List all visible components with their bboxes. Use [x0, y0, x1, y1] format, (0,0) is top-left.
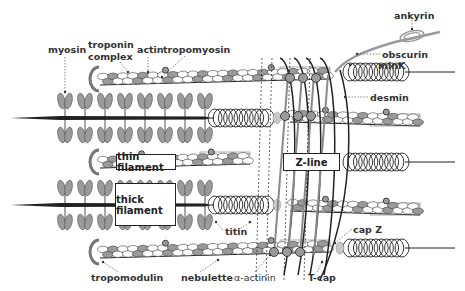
thick-filament-box: thick filament [115, 183, 176, 226]
myosin-head [83, 179, 93, 196]
actin-monomer [413, 119, 424, 125]
tropomodulin-cap [90, 240, 99, 264]
myosin-head [203, 92, 213, 109]
myosin-head [103, 179, 113, 196]
leader-arrowhead [321, 261, 323, 263]
titin-end [273, 112, 281, 124]
z-disc-node [307, 112, 316, 121]
thin-filament-box: thin filament [116, 154, 176, 170]
label-desmin: desmin [370, 92, 409, 103]
label-ankyrin: ankyrin [394, 10, 434, 21]
z-disc-node [283, 248, 292, 257]
myosin-head [163, 92, 173, 109]
leader-arrowhead [349, 64, 351, 66]
label-tropomodulin: tropomodulin [91, 272, 163, 283]
leader-line [255, 255, 270, 272]
troponin-complex [208, 149, 214, 155]
troponin-complex [383, 109, 389, 115]
tropomodulin-cap [90, 150, 99, 174]
z-line-box: Z-line [283, 153, 340, 171]
tropomodulin-cap [90, 67, 99, 91]
label-obscurin: obscurin [382, 49, 428, 60]
leader-arrowhead [147, 71, 149, 73]
troponin-complex [323, 196, 329, 202]
leader-arrowhead [161, 76, 163, 78]
leader-arrowhead [127, 71, 129, 73]
label-titin: titin [225, 226, 247, 237]
myosin-head [63, 179, 73, 196]
label-tropomyosin: tropomyosin [163, 44, 230, 55]
leader-arrowhead [249, 221, 251, 223]
troponin-complex [163, 67, 169, 73]
z-disc-node [281, 112, 290, 121]
z-disc-node [296, 248, 305, 257]
z-disc-node [312, 74, 321, 83]
myosin-head [63, 92, 73, 109]
label-actin: actin [137, 44, 164, 55]
myosin-head [143, 92, 153, 109]
myosin-head [83, 92, 93, 109]
label-t-cap: T-cap [308, 272, 336, 283]
troponin-complex [268, 65, 274, 71]
myosin-head [123, 92, 133, 109]
leader-arrowhead [411, 28, 413, 30]
leader-arrowhead [215, 221, 217, 223]
actin-monomer [413, 208, 424, 214]
leader-arrowhead [269, 254, 271, 256]
leader-arrowhead [356, 53, 358, 55]
cap-z-protein [336, 242, 344, 254]
leader-arrowhead [102, 261, 104, 263]
leader-line [317, 262, 322, 272]
myosin-head [183, 92, 193, 109]
leader-line [200, 260, 218, 272]
actin-monomer [243, 158, 254, 164]
label-cap-z: cap Z [353, 224, 382, 235]
label-mink: minK [378, 60, 405, 71]
z-disc-node [294, 112, 303, 121]
label-troponin-complex-2: complex [88, 51, 133, 62]
leader-arrowhead [334, 242, 336, 244]
myosin-head [183, 179, 193, 196]
troponin-complex [383, 198, 389, 204]
label-nebulette: nebulette [181, 272, 233, 283]
leader-line [216, 222, 223, 230]
thick-filament-backbone [10, 203, 210, 207]
leader-arrowhead [64, 91, 66, 93]
z-disc-node [286, 74, 295, 83]
z-disc-node [299, 74, 308, 83]
leader-arrowhead [344, 96, 346, 98]
troponin-complex [268, 238, 274, 244]
label-myosin: myosin [48, 44, 86, 55]
troponin-complex [163, 240, 169, 246]
leader-line [120, 62, 128, 72]
label-troponin-complex-1: troponin [88, 39, 134, 50]
thick-filament-backbone [10, 116, 210, 120]
leader-arrowhead [217, 259, 219, 261]
label-alpha-actinin: α-actinin [234, 272, 276, 283]
myosin-head [203, 179, 213, 196]
myosin-head [103, 92, 113, 109]
leader-line [103, 262, 118, 272]
